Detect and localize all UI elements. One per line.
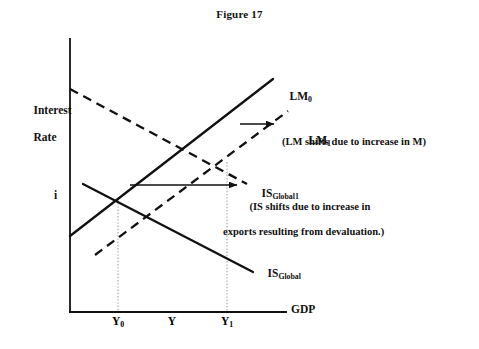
- x-axis-tick-y-base: Y: [168, 315, 176, 327]
- figure-container: Figure 17 Interest Rate i GDP LM0 LM1 (L…: [0, 0, 479, 349]
- curve-label-is-global: ISGlobal: [256, 253, 301, 294]
- x-axis-tick-y0: Y0: [112, 315, 124, 327]
- annotation-lm-note: (LM shifts due to increase in M): [282, 136, 426, 148]
- curve-label-is-global-sub: Global: [278, 272, 301, 281]
- is-lm-diagram: [0, 0, 479, 349]
- page-title: Figure 17: [0, 8, 479, 21]
- x-axis-tick-y: Y: [168, 315, 176, 327]
- y-axis-title-line2: Rate: [34, 131, 57, 143]
- annotation-is-note-line1: (IS shifts due to increase in: [250, 201, 371, 212]
- curve-label-lm0-sub: 0: [308, 95, 312, 104]
- y-axis-tick-i: i: [54, 189, 57, 203]
- curve-label-is-global-base: IS: [268, 267, 279, 279]
- x-axis-tick-y1: Y1: [221, 315, 233, 327]
- x-axis-tick-y0-sub: 0: [120, 320, 124, 329]
- y-axis-title: Interest Rate: [22, 90, 72, 158]
- x-axis-title: GDP: [291, 303, 315, 317]
- annotation-is-note-line2: exports resulting from devaluation.): [223, 226, 384, 238]
- y-axis-title-line1: Interest: [34, 104, 72, 116]
- curve-is-global1: [70, 89, 247, 184]
- curve-label-lm0-base: LM: [290, 90, 309, 102]
- curve-label-lm0: LM0: [278, 76, 312, 117]
- x-axis-tick-y1-sub: 1: [229, 320, 233, 329]
